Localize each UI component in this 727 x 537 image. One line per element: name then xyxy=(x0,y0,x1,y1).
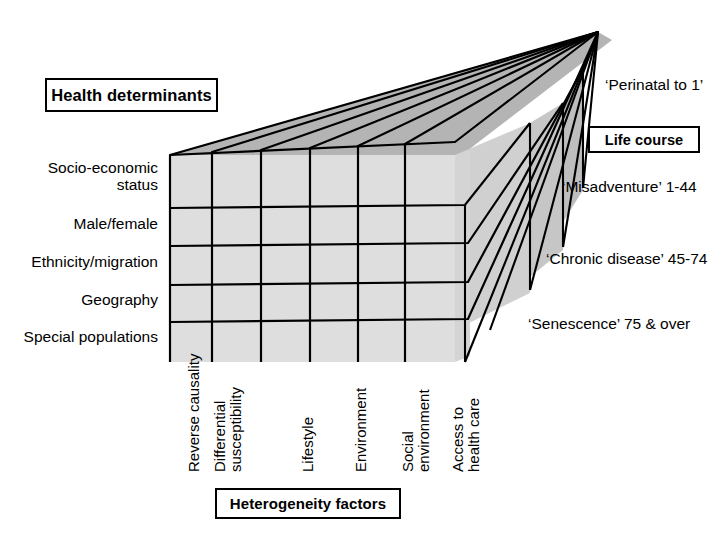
life-course-title-label: Life course xyxy=(605,132,683,148)
life-stage-label-chronic-disease: ‘Chronic disease’ 45-74 xyxy=(546,250,707,268)
health-determinants-title-label: Health determinants xyxy=(51,86,212,105)
column-label-access-to-health-care: Access to health care xyxy=(450,398,482,472)
front-face-bevel xyxy=(455,150,470,362)
column-label-lifestyle: Lifestyle xyxy=(300,417,316,472)
life-stage-label-senescence: ‘Senescence’ 75 & over xyxy=(528,315,690,333)
row-label-geography: Geography xyxy=(0,291,158,308)
row-label-male-female: Male/female xyxy=(0,215,158,232)
heterogeneity-factors-title-box: Heterogeneity factors xyxy=(215,488,401,519)
life-stage-label-perinatal: ‘Perinatal to 1’ xyxy=(605,76,703,94)
life-course-title-box: Life course xyxy=(588,126,700,153)
cube-faces xyxy=(170,32,612,362)
heterogeneity-factors-title-label: Heterogeneity factors xyxy=(230,495,386,512)
column-label-differential-susceptibility: Differential susceptibility xyxy=(212,387,244,472)
column-label-social-environment: Social environment xyxy=(400,389,432,472)
row-label-special-populations: Special populations xyxy=(0,328,158,345)
column-label-environment: Environment xyxy=(353,388,369,472)
row-label-ethnicity-migration: Ethnicity/migration xyxy=(0,253,158,270)
life-stage-label-misadventure: ‘Misadventure’ 1-44 xyxy=(562,178,697,196)
column-label-reverse-causality: Reverse causality xyxy=(186,354,202,472)
health-determinants-title-box: Health determinants xyxy=(45,78,218,112)
row-label-socio-economic-status: Socio-economic status xyxy=(0,159,158,193)
diagram-canvas: Health determinants Life course Heteroge… xyxy=(0,0,727,537)
